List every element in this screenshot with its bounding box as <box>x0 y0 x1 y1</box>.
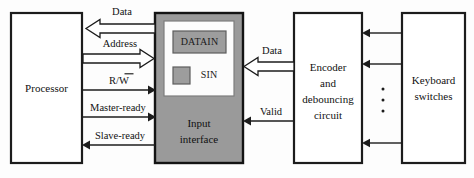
valid-arrow <box>243 117 294 126</box>
keyboard-line-2 <box>362 60 402 68</box>
input-interface-label-line1: Input <box>187 117 210 129</box>
slave-ready-arrow <box>82 141 155 150</box>
master-ready-label: Master-ready <box>90 102 147 113</box>
data-bus-left-arrow <box>86 20 155 38</box>
keyboard-line-3 <box>362 139 402 147</box>
input-interface-label-line2: interface <box>180 133 219 145</box>
address-bus-arrow <box>83 50 154 68</box>
diagram-canvas: Processor DATAIN SIN Input interface Enc… <box>0 0 474 178</box>
encoder-label-line1: Encoder <box>310 61 347 73</box>
datain-register-label: DATAIN <box>181 36 219 47</box>
data-bus-right-arrow <box>244 58 294 76</box>
slave-ready-label: Slave-ready <box>95 130 146 141</box>
data-bus-left-label: Data <box>112 6 132 17</box>
encoder-label-line2: and <box>320 77 336 89</box>
keyboard-line-1 <box>362 29 402 37</box>
read-write-text: R/W <box>109 75 129 86</box>
block-diagram: Processor DATAIN SIN Input interface Enc… <box>0 0 474 178</box>
encoder-label-line4: circuit <box>314 109 342 121</box>
master-ready-arrow <box>83 113 156 122</box>
read-write-label: R/W <box>109 75 129 86</box>
read-write-arrow <box>83 86 156 95</box>
keyboard-label-line1: Keyboard <box>412 74 456 86</box>
encoder-label-line3: debouncing <box>302 93 354 105</box>
keyboard-switches-block <box>402 13 465 163</box>
data-bus-right-label: Data <box>262 45 282 56</box>
keyboard-label-line2: switches <box>415 90 453 102</box>
valid-label: Valid <box>260 106 283 117</box>
address-bus-label: Address <box>103 38 137 49</box>
processor-label: Processor <box>25 82 68 94</box>
vertical-ellipsis <box>382 88 385 113</box>
sin-flag-label: SIN <box>201 69 218 80</box>
sin-flag-box <box>173 67 190 84</box>
